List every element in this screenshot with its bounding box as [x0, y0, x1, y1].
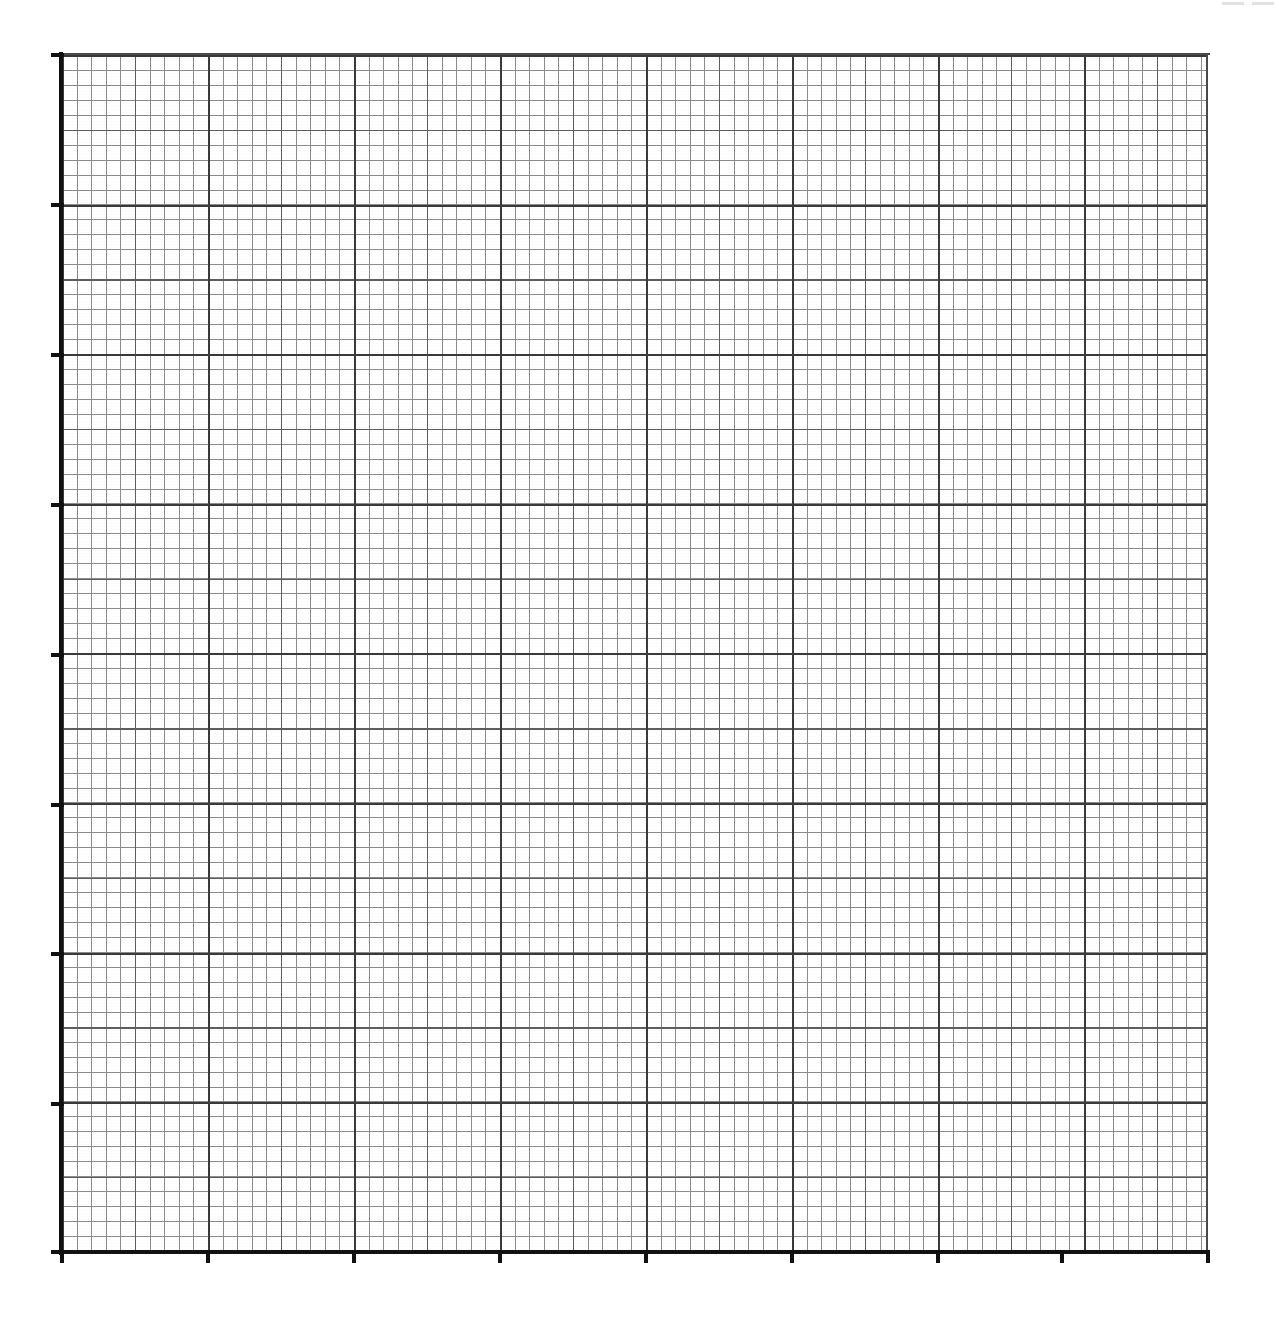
x-axis-tick [790, 1250, 793, 1263]
y-axis-tick [51, 353, 64, 356]
graph-paper-page [0, 0, 1279, 1323]
x-axis-tick [936, 1250, 939, 1263]
scan-artifact [1252, 2, 1274, 5]
y-axis-tick [51, 203, 64, 206]
grid-right-edge [1206, 53, 1208, 1253]
plot-area-grid [62, 55, 1208, 1252]
x-axis-tick [644, 1250, 647, 1263]
x-axis-tick [60, 1250, 63, 1263]
y-axis-tick [51, 952, 64, 955]
y-axis-tick [51, 1102, 64, 1105]
x-axis-tick [498, 1250, 501, 1263]
x-axis-tick [352, 1250, 355, 1263]
y-axis-tick [51, 803, 64, 806]
y-axis-tick [51, 653, 64, 656]
scan-artifact [1222, 2, 1244, 5]
x-axis-tick [1060, 1250, 1063, 1263]
x-axis-tick [1206, 1250, 1209, 1263]
x-axis-tick [206, 1250, 209, 1263]
y-axis-tick [51, 53, 64, 56]
y-axis-tick [51, 503, 64, 506]
grid-top-edge [62, 53, 1210, 55]
x-axis-line [59, 1250, 1210, 1254]
